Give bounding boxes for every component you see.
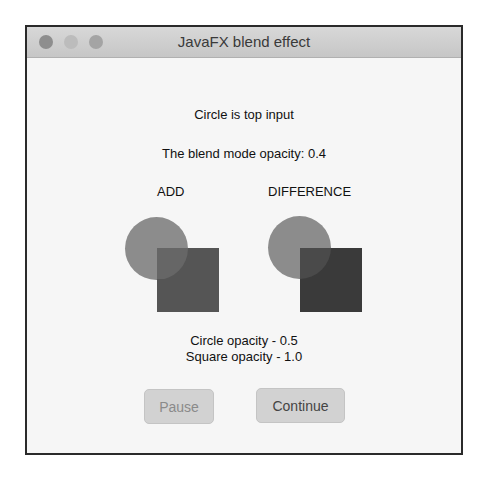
add-overlap (157, 248, 188, 279)
window-title: JavaFX blend effect (27, 33, 461, 50)
square-opacity-label: Square opacity - 1.0 (27, 349, 461, 364)
circle-opacity-label: Circle opacity - 0.5 (27, 333, 461, 348)
difference-overlap (300, 248, 331, 279)
top-input-label: Circle is top input (27, 107, 461, 122)
continue-button[interactable]: Continue (256, 388, 345, 423)
mode-label-difference: DIFFERENCE (268, 184, 351, 199)
title-bar[interactable]: JavaFX blend effect (27, 27, 461, 58)
pause-button[interactable]: Pause (144, 389, 214, 424)
app-window: JavaFX blend effect Circle is top input … (25, 25, 463, 455)
blend-opacity-label: The blend mode opacity: 0.4 (27, 146, 461, 161)
mode-label-add: ADD (157, 184, 184, 199)
